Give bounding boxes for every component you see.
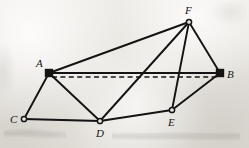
vertex-marker-b[interactable] xyxy=(216,69,224,77)
solid-edge-group xyxy=(24,22,220,121)
vertex-label-e: E xyxy=(168,117,175,128)
edge-d-e xyxy=(100,110,172,121)
vertex-label-f: F xyxy=(185,5,192,16)
vertex-marker-group xyxy=(21,19,224,123)
vertex-marker-e[interactable] xyxy=(169,107,174,112)
edge-f-b xyxy=(189,22,220,73)
vertex-label-a: A xyxy=(36,58,43,69)
vertex-marker-a[interactable] xyxy=(45,69,53,77)
edge-a-d xyxy=(49,73,100,121)
figure-canvas: ABCDEF xyxy=(0,0,249,148)
edge-e-f xyxy=(172,22,189,110)
edge-e-b xyxy=(172,73,220,110)
edge-a-c xyxy=(24,73,49,119)
vertex-marker-c[interactable] xyxy=(21,116,26,121)
vertex-marker-f[interactable] xyxy=(186,19,191,24)
graph-svg xyxy=(0,0,249,148)
edge-a-f xyxy=(49,22,189,73)
vertex-label-c: C xyxy=(10,114,17,125)
vertex-label-b: B xyxy=(227,69,234,80)
vertex-label-d: D xyxy=(96,128,104,139)
edge-c-d xyxy=(24,119,100,121)
vertex-marker-d[interactable] xyxy=(97,118,102,123)
